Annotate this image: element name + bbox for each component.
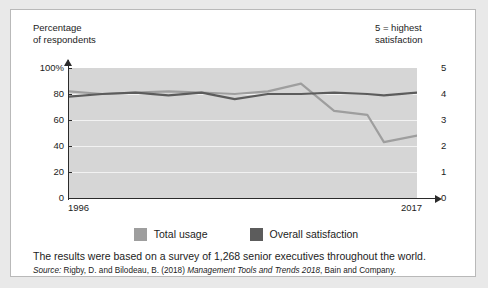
chart-area: 100%806040200 543210 1996 2017 <box>31 60 461 205</box>
source-title: Management Tools and Trends 2018 <box>187 266 320 275</box>
x-axis-label-end: 2017 <box>401 202 422 213</box>
y-axis-arrow-icon <box>64 59 72 66</box>
right-axis-title: 5 = highest satisfaction <box>375 22 423 45</box>
y2-axis-tick-label: 0 <box>441 192 471 203</box>
y2-axis-tick-label: 3 <box>441 114 471 125</box>
y-axis-tick-label: 100% <box>30 62 64 73</box>
y2-axis-tick-label: 2 <box>441 140 471 151</box>
y-axis-tick-label: 80 <box>30 88 64 99</box>
chart-legend: Total usageOverall satisfaction <box>31 226 461 242</box>
left-axis-title: Percentage of respondents <box>33 22 96 45</box>
x-axis-label-start: 1996 <box>68 202 89 213</box>
x-axis-line <box>68 198 436 199</box>
figure-note: The results were based on a survey of 1,… <box>33 250 457 262</box>
y-axis-tick-label: 60 <box>30 114 64 125</box>
series-lines <box>69 68 417 198</box>
y-axis-tick-label: 0 <box>30 192 64 203</box>
legend-swatch-overall-satisfaction <box>250 228 263 241</box>
y-axis-tick-mark <box>68 198 72 199</box>
y-axis-tick-label: 40 <box>30 140 64 151</box>
source-authors: Rigby, D. and Bilodeau, B. (2018) <box>61 266 187 275</box>
y-axis-tick-label: 20 <box>30 166 64 177</box>
y2-axis-tick-label: 1 <box>441 166 471 177</box>
legend-swatch-total-usage <box>134 228 147 241</box>
legend-item: Total usage <box>134 228 208 241</box>
source-label: Source: <box>33 266 61 275</box>
source-publisher: , Bain and Company. <box>320 266 396 275</box>
figure-card: Percentage of respondents 5 = highest sa… <box>10 9 476 277</box>
legend-item: Overall satisfaction <box>250 228 359 241</box>
legend-label: Total usage <box>154 228 208 240</box>
figure-source: Source: Rigby, D. and Bilodeau, B. (2018… <box>33 266 457 275</box>
y2-axis-tick-label: 5 <box>441 62 471 73</box>
legend-label: Overall satisfaction <box>270 228 359 240</box>
y2-axis-tick-label: 4 <box>441 88 471 99</box>
